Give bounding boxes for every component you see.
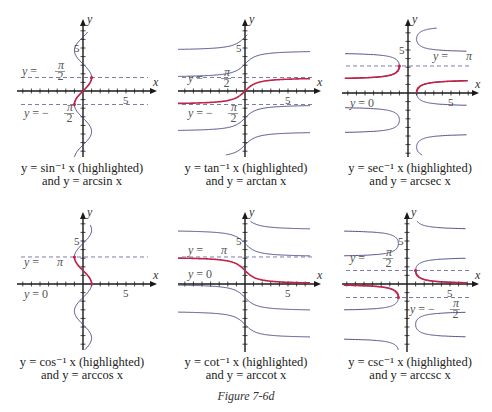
y-axis-label: y (248, 12, 255, 26)
svg-text:2: 2 (67, 111, 73, 125)
panel-arctan: yx55y = π2y = −π2 y = tan⁻¹ x (highlight… (164, 0, 328, 190)
y-axis-label: y (86, 205, 93, 219)
x-tick-5-label: 5 (285, 94, 291, 106)
svg-text:y =: y = (187, 243, 203, 257)
svg-text:y = −: y = − (409, 302, 435, 316)
arccot-branch-curve (251, 221, 310, 228)
svg-text:y =: y = (432, 49, 448, 63)
svg-text:y = −: y = − (187, 106, 213, 120)
caption-arccos: y = cos⁻¹ x (highlighted) and y = arccos… (0, 356, 164, 382)
endpoint-dot (90, 76, 93, 79)
graph-arcsin: yx55y = π2y = −π2 (0, 0, 164, 160)
caption-line2: and y = arctan x (164, 175, 328, 188)
y-arrow-icon (80, 212, 86, 219)
graph-arcsec: yx55y = πy = 0 (328, 0, 492, 160)
arccsc-principal-curve (416, 271, 467, 283)
y-arrow-icon (242, 19, 248, 26)
x-axis-label: x (316, 75, 323, 89)
y-axis-label: y (248, 205, 255, 219)
x-tick-5-label: 5 (123, 287, 129, 299)
svg-text:y =: y = (23, 255, 39, 269)
arctan-branch-curve (226, 133, 310, 155)
axes (342, 19, 479, 157)
axes (178, 19, 321, 157)
endpoint-dot (414, 269, 417, 272)
svg-text:2: 2 (453, 307, 459, 321)
endpoint-dot (73, 103, 76, 106)
y-arrow-icon (404, 212, 410, 219)
panel-arcsec: yx55y = πy = 0 y = sec⁻¹ x (highlighted)… (328, 0, 492, 190)
x-axis-label: x (152, 75, 159, 89)
svg-text:π: π (466, 49, 473, 63)
svg-text:π: π (221, 243, 228, 257)
panel-arccot: yx55y = πy = 0 y = cot⁻¹ x (highlighted)… (164, 200, 328, 390)
label-y-neg-pi-over-2: y = −π2 (409, 296, 460, 321)
panel-arccos: yx55y = πy = 0 y = cos⁻¹ x (highlighted)… (0, 200, 164, 390)
label-y-pi-over-2: y = π2 (187, 65, 231, 90)
label-y-0: y = 0 (23, 287, 48, 301)
caption-arccsc: y = csc⁻¹ x (highlighted) and y = arccsc… (328, 356, 492, 382)
svg-text:2: 2 (224, 76, 230, 90)
y-axis-label: y (411, 12, 418, 26)
arccsc-branch-curve (344, 339, 398, 350)
caption-line2: and y = arcsin x (0, 175, 164, 188)
arcsec-principal-curve (345, 66, 400, 78)
graph-arccot: yx55y = πy = 0 (164, 200, 328, 360)
svg-text:y =: y = (21, 64, 37, 78)
label-y-pi-over-2: y = π2 (21, 58, 65, 83)
x-axis-label: x (152, 268, 159, 282)
y-arrow-icon (242, 212, 248, 219)
endpoint-dot (398, 64, 401, 67)
panel-arccsc: yx55y = π2y = −π2 y = csc⁻¹ x (highlight… (328, 200, 492, 390)
y-tick-5-label: 5 (399, 44, 405, 56)
svg-text:2: 2 (386, 256, 392, 270)
label-y-0: y = 0 (187, 267, 212, 281)
label-y-neg-pi-over-2: y = −π2 (23, 100, 74, 125)
arccot-branch-curve (178, 312, 310, 337)
label-y-pi: y = π (187, 243, 228, 257)
x-axis-label: x (316, 268, 323, 282)
arcsec-branch-curve (417, 28, 467, 51)
x-tick-5-label: 5 (285, 287, 291, 299)
caption-arctan: y = tan⁻¹ x (highlighted) and y = arctan… (164, 162, 328, 188)
graph-arccos: yx55y = πy = 0 (0, 200, 164, 360)
arccsc-branch-curve (417, 221, 466, 229)
y-arrow-icon (405, 19, 411, 26)
x-tick-5-label: 5 (123, 94, 129, 106)
caption-line2: and y = arcsec x (328, 175, 492, 188)
svg-text:2: 2 (58, 69, 64, 83)
svg-text:y =: y = (349, 251, 365, 265)
panel-arcsin: yx55y = π2y = −π2 y = sin⁻¹ x (highlight… (0, 0, 164, 190)
y-tick-5-label: 5 (236, 235, 242, 247)
y-tick-5-label: 5 (74, 235, 80, 247)
figure-caption: Figure 7-6d (0, 389, 492, 404)
caption-line2: and y = arccsc x (328, 369, 492, 382)
label-y-pi-over-2: y = π2 (349, 245, 393, 270)
x-axis-label: x (474, 268, 481, 282)
endpoint-dot (397, 296, 400, 299)
caption-line2: and y = arccot x (164, 369, 328, 382)
svg-text:π: π (57, 255, 64, 269)
svg-text:y =: y = (187, 71, 203, 85)
y-tick-5-label: 5 (74, 42, 80, 54)
y-axis-label: y (86, 12, 93, 26)
svg-text:y = −: y = − (23, 106, 49, 120)
caption-arccot: y = cot⁻¹ x (highlighted) and y = arccot… (164, 356, 328, 382)
endpoint-dot (90, 282, 93, 285)
y-tick-5-label: 5 (398, 235, 404, 247)
x-axis-label: x (474, 77, 481, 91)
y-tick-5-label: 5 (236, 42, 242, 54)
svg-text:2: 2 (231, 111, 237, 125)
y-arrow-icon (80, 19, 86, 26)
graph-arctan: yx55y = π2y = −π2 (164, 0, 328, 160)
caption-arcsin: y = sin⁻¹ x (highlighted) and y = arcsin… (0, 162, 164, 188)
caption-line2: and y = arccos x (0, 369, 164, 382)
arcsec-branch-curve (417, 135, 467, 155)
endpoint-dot (73, 255, 76, 258)
arcsec-branch-curve (345, 108, 399, 133)
y-axis-label: y (410, 205, 417, 219)
x-tick-5-label: 5 (448, 96, 454, 108)
label-y-0: y = 0 (349, 96, 374, 110)
graph-arccsc: yx55y = π2y = −π2 (328, 200, 492, 360)
caption-arcsec: y = sec⁻¹ x (highlighted) and y = arcsec… (328, 162, 492, 188)
